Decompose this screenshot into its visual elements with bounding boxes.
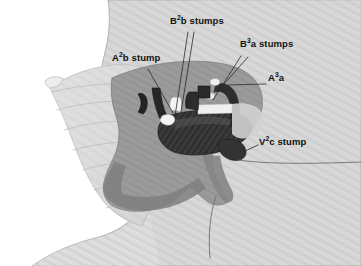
annotation-b2b-suffix: b stumps xyxy=(181,15,224,26)
annotation-b3a-stumps[interactable]: B3a stumps xyxy=(240,38,293,49)
annotation-a2b-base: A xyxy=(112,52,119,63)
annotation-a2b-suffix: b stump xyxy=(123,52,161,63)
vessel-stump-mid xyxy=(198,86,210,98)
annotation-v2c-stump[interactable]: V2c stump xyxy=(259,136,306,147)
surgical-anatomy-figure: A2b stump B2b stumps B3a stumps A3a V2c … xyxy=(0,0,361,266)
figure-canvas xyxy=(0,0,361,266)
annotation-b2b-stumps[interactable]: B2b stumps xyxy=(170,15,224,26)
annotation-v2c-suffix: c stump xyxy=(269,136,306,147)
a3a-white-band xyxy=(198,104,232,114)
annotation-b3a-suffix: a stumps xyxy=(251,38,294,49)
b3a-stump-upper xyxy=(210,78,220,85)
annotation-a3a[interactable]: A3a xyxy=(268,72,284,83)
annotation-a3a-base: A xyxy=(268,72,275,83)
annotation-a3a-suffix: a xyxy=(279,72,284,83)
annotation-b3a-base: B xyxy=(240,38,247,49)
annotation-b2b-base: B xyxy=(170,15,177,26)
b2b-stump-right xyxy=(186,92,199,110)
annotation-a2b-stump[interactable]: A2b stump xyxy=(112,52,161,63)
